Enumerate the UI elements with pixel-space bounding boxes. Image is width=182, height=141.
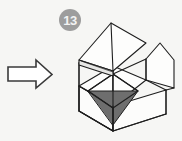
flap-right-upper-edge: [166, 88, 174, 90]
box-layer: [0, 0, 182, 141]
open-carton-diagram: [79, 23, 174, 131]
figure-canvas: 13: [0, 0, 182, 141]
flap-right-outer: [146, 43, 174, 88]
step-number-badge: 13: [59, 9, 81, 31]
step-number-badge-label: 13: [63, 14, 76, 27]
